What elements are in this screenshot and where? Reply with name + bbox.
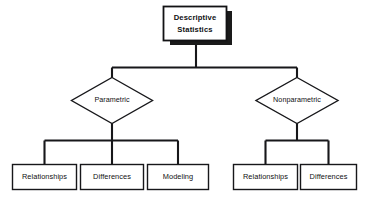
connector-group-root [112,44,297,78]
leaf-label: Relationships [243,172,288,181]
node-descriptive-statistics[interactable]: Descriptive Statistics [164,7,233,46]
connector-group-parametric [45,123,179,164]
node-parametric-modeling[interactable]: Modeling [148,165,209,190]
node-parametric-differences[interactable]: Differences [81,165,144,190]
leaf-label: Differences [93,172,131,181]
node-parametric-relationships[interactable]: Relationships [13,165,77,190]
leaf-label: Relationships [22,172,67,181]
node-nonparametric[interactable]: Nonparametric [256,78,338,124]
node-nonparametric-differences[interactable]: Differences [301,165,357,190]
connector-group-nonparametric [266,123,329,164]
nonparametric-label: Nonparametric [273,95,321,104]
root-label-line-1: Descriptive [174,13,217,22]
diagram-canvas: Descriptive Statistics Parametric Nonpar… [0,0,373,198]
leaf-label: Modeling [163,172,193,181]
node-nonparametric-relationships[interactable]: Relationships [234,165,298,190]
root-label-line-2: Statistics [177,25,212,34]
node-parametric[interactable]: Parametric [72,78,153,124]
parametric-label: Parametric [94,95,130,104]
descriptive-statistics-flowchart: Descriptive Statistics Parametric Nonpar… [0,0,373,198]
leaf-label: Differences [310,172,348,181]
